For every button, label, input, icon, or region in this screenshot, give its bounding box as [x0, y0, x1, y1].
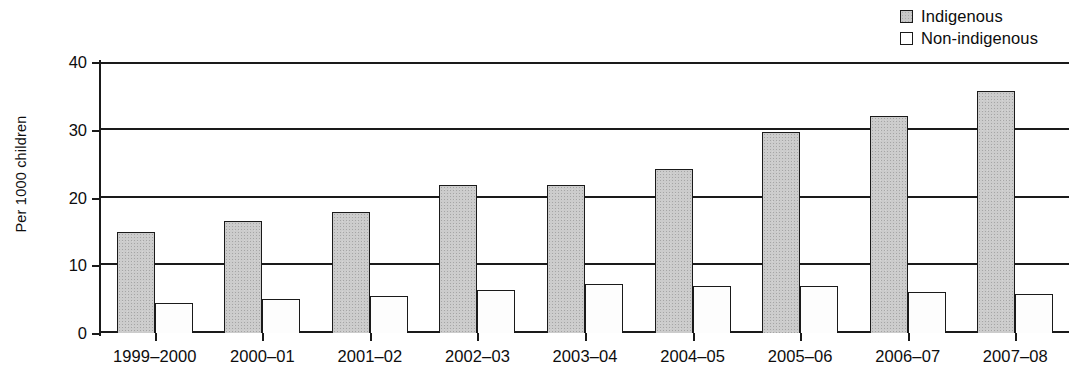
bar-indigenous[interactable]: [762, 132, 800, 333]
legend-swatch-non-indigenous-icon: [900, 32, 913, 45]
x-axis-tick: [531, 333, 639, 341]
bar-pair: [762, 132, 838, 333]
x-axis-label: 2004–05: [639, 345, 747, 369]
bar-pair: [655, 169, 731, 333]
bar-pair: [332, 212, 408, 333]
x-axis-label: 1999–2000: [101, 345, 209, 369]
bar-indigenous[interactable]: [977, 91, 1015, 333]
bar-group: [531, 62, 639, 333]
x-axis-tick: [209, 333, 317, 341]
x-axis-label: 2006–07: [854, 345, 962, 369]
y-axis-tick-label: 30: [69, 120, 87, 139]
plot-area: 010203040: [101, 62, 1069, 333]
x-axis-tick-mark: [1015, 333, 1017, 341]
x-axis-tick-mark: [585, 333, 587, 341]
bar-group: [209, 62, 317, 333]
bar-group: [316, 62, 424, 333]
x-axis-tick-mark: [262, 333, 264, 341]
bar-non-indigenous[interactable]: [262, 299, 300, 333]
bar-non-indigenous[interactable]: [155, 303, 193, 333]
bar-group: [962, 62, 1070, 333]
y-axis-tick-mark: [92, 198, 101, 200]
x-axis-tick-mark: [155, 333, 157, 341]
bar-group: [101, 62, 209, 333]
bar-non-indigenous[interactable]: [585, 284, 623, 333]
bar-non-indigenous[interactable]: [693, 286, 731, 333]
x-axis-label: 2001–02: [316, 345, 424, 369]
x-axis-tick: [424, 333, 532, 341]
bar-pair: [439, 185, 515, 333]
y-axis-title-text: Per 1000 children: [13, 115, 29, 232]
legend-swatch-indigenous-icon: [900, 10, 913, 23]
bar-pair: [117, 232, 193, 333]
x-axis-label: 2007–08: [962, 345, 1070, 369]
legend-item-non-indigenous: Non-indigenous: [900, 29, 1038, 48]
bar-indigenous[interactable]: [439, 185, 477, 333]
bar-non-indigenous[interactable]: [1015, 294, 1053, 333]
bar-indigenous[interactable]: [870, 116, 908, 333]
legend-label-indigenous: Indigenous: [921, 7, 1003, 26]
bar-group: [639, 62, 747, 333]
legend-label-non-indigenous: Non-indigenous: [921, 29, 1038, 48]
chart-legend: Indigenous Non-indigenous: [900, 7, 1038, 48]
bar-group: [424, 62, 532, 333]
y-axis-tick-mark: [92, 62, 101, 64]
bar-pair: [977, 91, 1053, 333]
y-axis-tick-mark: [92, 130, 101, 132]
x-axis-label: 2000–01: [209, 345, 317, 369]
bar-indigenous[interactable]: [224, 221, 262, 333]
bar-indigenous[interactable]: [655, 169, 693, 333]
x-axis-tick-mark: [477, 333, 479, 341]
y-axis-tick-label: 0: [78, 324, 87, 343]
x-axis-tick: [101, 333, 209, 341]
bar-indigenous[interactable]: [547, 185, 585, 333]
x-axis-tick: [854, 333, 962, 341]
bar-groups: [101, 62, 1069, 333]
y-axis-title: Per 1000 children: [8, 0, 34, 369]
x-axis-tick: [962, 333, 1070, 341]
x-axis-label: 2003–04: [531, 345, 639, 369]
y-axis-tick-mark: [92, 265, 101, 267]
x-axis-tick-mark: [693, 333, 695, 341]
x-axis-labels: 1999–20002000–012001–022002–032003–04200…: [101, 345, 1069, 369]
x-axis-tick-mark: [908, 333, 910, 341]
x-axis-label: 2005–06: [746, 345, 854, 369]
y-axis-tick-mark: [92, 333, 101, 335]
bar-non-indigenous[interactable]: [477, 290, 515, 333]
x-axis-tick-mark: [800, 333, 802, 341]
bar-non-indigenous[interactable]: [800, 286, 838, 333]
bar-group: [854, 62, 962, 333]
legend-item-indigenous: Indigenous: [900, 7, 1038, 26]
bar-indigenous[interactable]: [117, 232, 155, 333]
bar-pair: [224, 221, 300, 333]
x-axis-tick-mark: [370, 333, 372, 341]
x-axis-tick: [316, 333, 424, 341]
x-axis-tick: [746, 333, 854, 341]
bar-non-indigenous[interactable]: [370, 296, 408, 333]
bar-non-indigenous[interactable]: [908, 292, 946, 333]
bar-group: [746, 62, 854, 333]
y-axis-tick-label: 40: [69, 53, 87, 72]
x-axis-ticks: [101, 333, 1069, 341]
y-axis-tick-label: 20: [69, 188, 87, 207]
bar-pair: [870, 116, 946, 333]
x-axis-label: 2002–03: [424, 345, 532, 369]
y-axis-tick-label: 10: [69, 256, 87, 275]
bar-pair: [547, 185, 623, 333]
bar-indigenous[interactable]: [332, 212, 370, 333]
x-axis-tick: [639, 333, 747, 341]
